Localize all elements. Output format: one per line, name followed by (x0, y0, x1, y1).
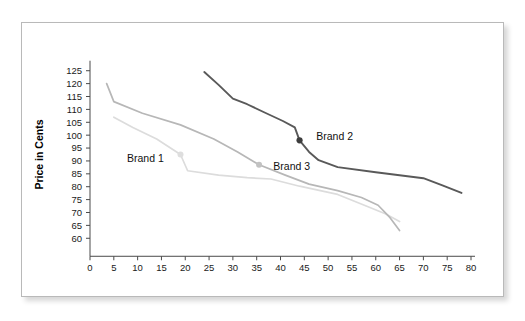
x-tick-label: 60 (370, 262, 381, 273)
series-label-brand-3: Brand 3 (273, 160, 310, 172)
x-tick-label: 75 (442, 262, 453, 273)
figure-root: 6065707580859095100105110115120125051015… (0, 0, 525, 321)
y-tick-label: 120 (66, 78, 82, 89)
x-tick-label: 0 (87, 262, 92, 273)
x-tick-label: 40 (275, 262, 286, 273)
y-tick-label: 60 (71, 233, 82, 244)
y-tick-label: 100 (66, 130, 82, 141)
series-marker-brand-3 (256, 162, 262, 168)
line-chart: 6065707580859095100105110115120125051015… (22, 23, 503, 296)
y-tick-label: 115 (67, 91, 82, 102)
y-tick-label: 95 (71, 142, 82, 153)
x-tick-label: 35 (251, 262, 262, 273)
series-label-brand-2: Brand 2 (316, 130, 353, 142)
y-tick-label: 65 (71, 220, 82, 231)
x-tick-label: 70 (418, 262, 429, 273)
y-tick-label: 105 (66, 117, 82, 128)
x-tick-label: 80 (466, 262, 477, 273)
x-tick-label: 55 (347, 262, 358, 273)
y-tick-label: 80 (71, 181, 82, 192)
chart-plate: 6065707580859095100105110115120125051015… (21, 22, 504, 297)
y-tick-label: 90 (71, 155, 82, 166)
y-tick-label: 110 (67, 104, 82, 115)
y-tick-label: 75 (71, 194, 82, 205)
y-tick-label: 70 (71, 207, 82, 218)
x-tick-label: 30 (228, 262, 239, 273)
x-tick-label: 25 (204, 262, 215, 273)
x-tick-label: 20 (180, 262, 191, 273)
series-label-brand-1: Brand 1 (127, 152, 164, 164)
x-tick-label: 5 (111, 262, 116, 273)
x-tick-label: 65 (394, 262, 405, 273)
y-tick-label: 85 (71, 168, 82, 179)
y-axis-title: Price in Cents (33, 119, 45, 189)
x-tick-label: 50 (323, 262, 334, 273)
y-tick-label: 125 (66, 65, 82, 76)
x-tick-label: 15 (156, 262, 167, 273)
series-marker-brand-2 (296, 137, 302, 143)
x-tick-label: 45 (299, 262, 310, 273)
x-tick-label: 10 (132, 262, 143, 273)
series-marker-brand-1 (177, 152, 183, 158)
